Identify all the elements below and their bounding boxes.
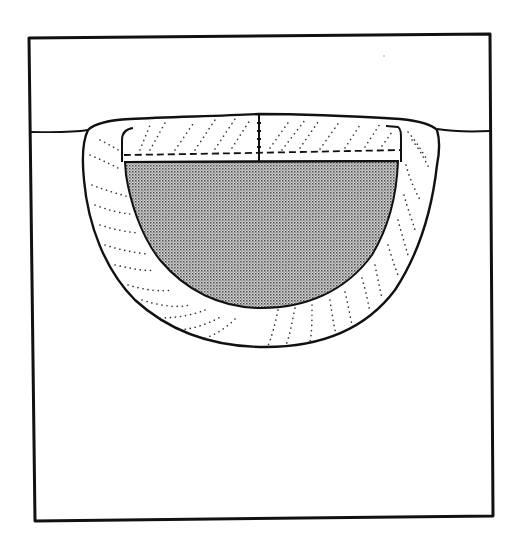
fusion-zone-top-line	[124, 161, 398, 162]
weld-cross-section-diagram	[0, 0, 526, 554]
diagram-canvas: weld bead cross-section	[0, 0, 526, 554]
speck	[383, 55, 385, 57]
